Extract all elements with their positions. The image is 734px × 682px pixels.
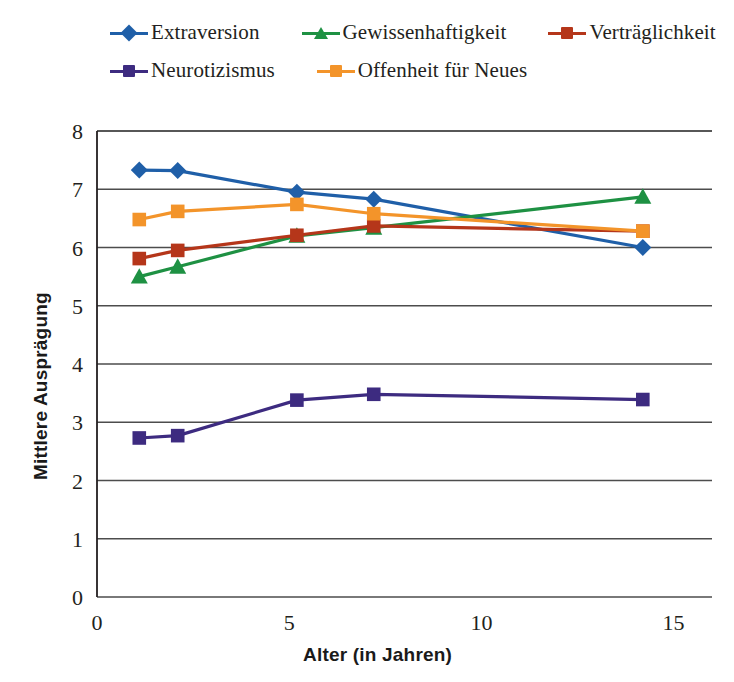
data-point-diamond — [131, 162, 148, 179]
y-tick-label-2: 2 — [72, 469, 83, 494]
data-point-square — [636, 393, 650, 407]
data-point-square — [367, 219, 381, 233]
x-tick-label-0: 0 — [92, 610, 103, 635]
chart-plot-area: 012345678051015 — [0, 0, 734, 682]
data-point-diamond — [365, 191, 382, 208]
y-tick-label-6: 6 — [72, 236, 83, 261]
data-point-diamond — [169, 162, 186, 179]
data-point-square — [290, 393, 304, 407]
data-point-square — [636, 224, 650, 238]
data-point-square — [132, 213, 146, 227]
x-tick-label-5: 5 — [284, 610, 295, 635]
y-tick-label-3: 3 — [72, 410, 83, 435]
data-point-square — [171, 205, 185, 219]
series-neurotizismus — [132, 387, 649, 444]
data-point-square — [367, 207, 381, 221]
x-tick-label-15: 15 — [663, 610, 685, 635]
data-point-square — [171, 244, 185, 258]
data-point-square — [290, 228, 304, 242]
series-line — [139, 226, 643, 259]
data-point-square — [132, 431, 146, 445]
x-tick-label-10: 10 — [470, 610, 492, 635]
y-tick-label-4: 4 — [72, 352, 83, 377]
y-tick-label-0: 0 — [72, 585, 83, 610]
data-point-square — [290, 198, 304, 212]
data-point-square — [367, 387, 381, 401]
data-point-square — [132, 252, 146, 266]
series-line — [139, 394, 643, 438]
y-tick-label-1: 1 — [72, 527, 83, 552]
y-tick-label-7: 7 — [72, 177, 83, 202]
y-tick-label-5: 5 — [72, 294, 83, 319]
data-point-diamond — [634, 239, 651, 256]
y-tick-label-8: 8 — [72, 119, 83, 144]
chart-figure: ExtraversionGewissenhaftigkeitVerträglic… — [0, 0, 734, 682]
data-point-square — [171, 429, 185, 443]
